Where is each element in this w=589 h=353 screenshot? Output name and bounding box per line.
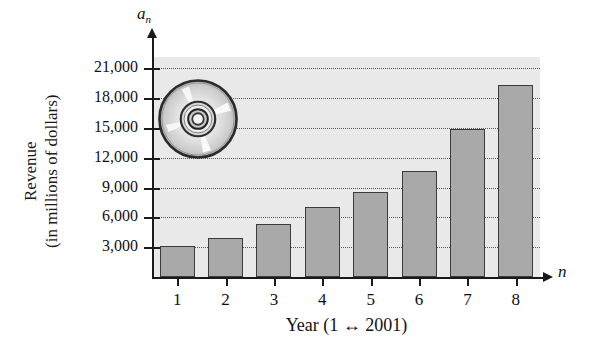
y-axis-arrowhead bbox=[147, 28, 157, 38]
x-tick-mark bbox=[371, 277, 373, 286]
x-tick-mark bbox=[516, 277, 518, 286]
y-axis-title-line2: (in millions of dollars) bbox=[41, 56, 62, 286]
y-tick-mark bbox=[144, 217, 160, 219]
y-tick-mark bbox=[144, 247, 160, 249]
y-tick-label: 9,000 bbox=[102, 178, 138, 196]
bar bbox=[450, 129, 485, 277]
bar bbox=[353, 192, 388, 277]
bar bbox=[160, 246, 195, 277]
y-tick-label: 3,000 bbox=[102, 237, 138, 255]
y-axis-variable-label: an bbox=[137, 4, 151, 25]
gridline-21000 bbox=[153, 68, 540, 69]
y-tick-label: 21,000 bbox=[94, 58, 138, 76]
y-tick-mark bbox=[144, 158, 160, 160]
y-tick-label: 15,000 bbox=[94, 118, 138, 136]
y-tick-label: 12,000 bbox=[94, 148, 138, 166]
y-axis-variable-subscript: n bbox=[146, 13, 152, 25]
bar bbox=[208, 238, 243, 277]
bar bbox=[498, 85, 533, 277]
cd-disc-icon bbox=[157, 78, 239, 160]
y-tick-label: 6,000 bbox=[102, 207, 138, 225]
x-tick-label: 3 bbox=[259, 290, 289, 310]
x-tick-mark bbox=[322, 277, 324, 286]
x-tick-mark bbox=[177, 277, 179, 286]
y-axis-title: Revenue (in millions of dollars) bbox=[20, 56, 63, 286]
x-tick-label: 7 bbox=[452, 290, 482, 310]
x-tick-label: 6 bbox=[404, 290, 434, 310]
x-tick-mark bbox=[467, 277, 469, 286]
y-tick-mark bbox=[144, 128, 160, 130]
x-tick-label: 1 bbox=[162, 290, 192, 310]
bar bbox=[256, 224, 291, 277]
x-tick-label: 2 bbox=[211, 290, 241, 310]
x-tick-mark bbox=[274, 277, 276, 286]
bar-chart-figure: 3,0006,0009,00012,00015,00018,00021,000 … bbox=[0, 0, 589, 353]
x-tick-mark bbox=[419, 277, 421, 286]
y-tick-mark bbox=[144, 68, 160, 70]
x-axis-variable-label: n bbox=[558, 262, 567, 282]
y-axis-title-line1: Revenue bbox=[20, 56, 41, 286]
x-tick-label: 4 bbox=[307, 290, 337, 310]
bar bbox=[402, 171, 437, 277]
x-tick-label: 5 bbox=[356, 290, 386, 310]
x-axis-title: Year (1 ↔ 2001) bbox=[153, 315, 540, 336]
x-tick-mark bbox=[226, 277, 228, 286]
y-tick-label: 18,000 bbox=[94, 88, 138, 106]
x-axis-line bbox=[152, 277, 544, 279]
x-tick-label: 8 bbox=[501, 290, 531, 310]
y-tick-mark bbox=[144, 98, 160, 100]
bar bbox=[305, 207, 340, 277]
y-tick-mark bbox=[144, 188, 160, 190]
y-axis-variable-base: a bbox=[137, 4, 146, 23]
x-axis-arrowhead bbox=[543, 272, 553, 282]
